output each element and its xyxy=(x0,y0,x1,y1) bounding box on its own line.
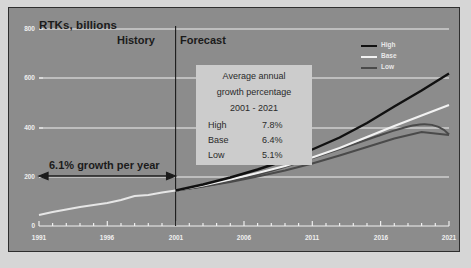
x-tick-2021: 2021 xyxy=(434,234,464,241)
y-tick-400: 400 xyxy=(13,124,35,131)
legend-swatch-high xyxy=(361,45,377,47)
y-tick-600: 600 xyxy=(13,74,35,81)
x-tick-2011: 2011 xyxy=(297,234,327,241)
y-tick-0: 0 xyxy=(13,222,35,229)
x-axis xyxy=(39,221,449,226)
forecast-label: Forecast xyxy=(180,34,226,46)
y-tick-200: 200 xyxy=(13,173,35,180)
infobox-value-high: 7.8% xyxy=(262,120,283,130)
screenshot-root: 800 600 400 200 0 1991 1996 2001 2006 20… xyxy=(0,0,471,268)
infobox-value-base: 6.4% xyxy=(262,135,283,145)
legend-label-low: Low xyxy=(381,63,394,70)
x-tick-1991: 1991 xyxy=(24,234,54,241)
growth-annotation: 6.1% growth per year xyxy=(49,159,160,171)
x-tick-2006: 2006 xyxy=(229,234,259,241)
chart-panel: 800 600 400 200 0 1991 1996 2001 2006 20… xyxy=(8,7,460,252)
infobox-label-low: Low xyxy=(208,150,225,160)
infobox-line-3: 2001 - 2021 xyxy=(196,103,312,113)
infobox-label-high: High xyxy=(208,120,227,130)
legend-swatch-base xyxy=(361,56,377,58)
history-label: History xyxy=(117,34,155,46)
x-tick-2016: 2016 xyxy=(366,234,396,241)
y-axis-ticks xyxy=(39,29,43,177)
y-tick-800: 800 xyxy=(13,25,35,32)
infobox-value-low: 5.1% xyxy=(262,150,283,160)
series-history xyxy=(39,191,176,216)
chart-title: RTKs, billions xyxy=(39,19,117,31)
growth-arrow xyxy=(39,173,176,180)
infobox-line-1: Average annual xyxy=(196,71,312,81)
x-tick-2001: 2001 xyxy=(161,234,191,241)
legend-swatch-low xyxy=(361,67,377,69)
infobox-label-base: Base xyxy=(208,135,229,145)
growth-percentage-box: Average annual growth percentage 2001 - … xyxy=(196,65,312,165)
x-tick-1996: 1996 xyxy=(92,234,122,241)
legend-label-high: High xyxy=(381,41,395,48)
infobox-line-2: growth percentage xyxy=(196,87,312,97)
legend-label-base: Base xyxy=(381,52,397,59)
